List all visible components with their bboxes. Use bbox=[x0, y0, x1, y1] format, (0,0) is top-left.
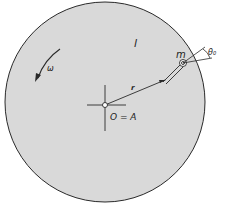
label-body: l bbox=[134, 37, 137, 50]
label-omega: ω bbox=[47, 64, 54, 73]
label-origin: O = A bbox=[110, 112, 137, 122]
label-radius: r bbox=[131, 84, 135, 92]
label-mass: m bbox=[176, 49, 186, 60]
origin-pivot bbox=[103, 103, 108, 108]
label-angle: θ₀ bbox=[208, 48, 217, 57]
rotating-disk-diagram: l ω r m θ₀ O = A bbox=[0, 0, 225, 206]
